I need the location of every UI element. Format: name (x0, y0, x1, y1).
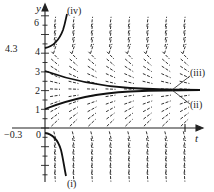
slope-segment (69, 107, 78, 112)
y-tick-1: 1 (35, 104, 40, 115)
slope-segment (184, 17, 185, 27)
slope-segment (180, 107, 189, 112)
slope-segment (125, 59, 133, 65)
slope-segment (91, 17, 92, 27)
curve-label-iii: (iii) (190, 67, 205, 79)
slope-segment (129, 172, 130, 182)
slope-segment (107, 119, 114, 126)
slope-segment (88, 59, 96, 65)
slope-segment (144, 59, 152, 65)
slope-segment (125, 66, 133, 71)
slope-segment (51, 113, 59, 119)
slope-segment (106, 95, 116, 97)
slope-segment (166, 172, 167, 182)
slope-segment (106, 74, 115, 78)
slope-segment (147, 172, 148, 182)
slope-segment (180, 95, 190, 97)
slope-segment (89, 52, 96, 59)
slope-segment (180, 66, 188, 71)
slope-segment (110, 172, 111, 182)
slope-segment (69, 66, 77, 71)
slope-segment (143, 66, 151, 71)
slope-segment (125, 107, 134, 112)
slope-segment (51, 107, 60, 112)
slope-segment (125, 119, 132, 126)
slope-segment (144, 119, 151, 126)
slope-segment (181, 59, 189, 65)
slope-segment (88, 113, 96, 119)
y-tick-6: 6 (34, 17, 39, 28)
slope-segment (181, 52, 188, 59)
slope-segment (124, 81, 134, 83)
slope-segment (52, 52, 59, 59)
slope-segment (181, 113, 189, 119)
curve-iii (45, 71, 200, 90)
slope-segment (144, 52, 151, 59)
slope-segment (69, 95, 79, 97)
curve-ii (45, 90, 200, 109)
slope-segment (106, 81, 116, 83)
slope-segment (124, 74, 133, 78)
slope-segment (161, 81, 171, 83)
slope-segment (70, 113, 78, 119)
solution-curves (45, 14, 200, 176)
slope-segment (88, 66, 96, 71)
slope-segment (107, 52, 114, 59)
slope-segment (162, 59, 170, 65)
slope-segment (161, 101, 170, 104)
slope-segment (126, 52, 133, 59)
y-axis-label: y (35, 2, 41, 14)
slope-segment (88, 107, 97, 112)
slope-segment (143, 101, 152, 104)
slope-segment (50, 81, 60, 83)
slope-segment (180, 74, 189, 78)
slope-segment (92, 172, 93, 182)
slope-segment (184, 172, 185, 182)
slope-segment (128, 17, 129, 27)
curve-label-iv: (iv) (67, 5, 81, 17)
slope-segment (54, 17, 55, 27)
slope-segment (87, 74, 96, 78)
slope-segment (124, 95, 134, 97)
t-axis-label: t (195, 132, 199, 144)
slope-segment (51, 59, 59, 65)
label-lower-initial: −0.3 (4, 129, 22, 140)
slope-segment (163, 52, 170, 59)
slope-field-diagram: y t 6 4 3 2 1 0 4.3 −0.3 (iv) (iii) (ii)… (0, 0, 214, 192)
slope-segment (70, 59, 78, 65)
slope-segment (143, 81, 153, 83)
slope-segment (106, 101, 115, 104)
slope-segment (55, 172, 56, 182)
slope-segment (51, 119, 58, 126)
slope-segment (88, 119, 95, 126)
y-tick-2: 2 (35, 85, 40, 96)
y-axis-arrow-icon (42, 4, 48, 11)
slope-segment (143, 95, 153, 97)
slope-segment (69, 81, 79, 83)
slope-segment (165, 17, 166, 27)
slope-segment (70, 119, 77, 126)
slope-segment (70, 52, 77, 59)
slope-segment (161, 74, 170, 78)
y-tick-4: 4 (35, 46, 40, 57)
curve-label-i: (i) (67, 178, 76, 190)
slope-segment (110, 17, 111, 27)
slope-segment (107, 113, 115, 119)
slope-segment (143, 107, 152, 112)
slope-segment (73, 17, 74, 27)
slope-segment (69, 74, 78, 78)
slope-segment (162, 119, 169, 126)
slope-segment (106, 107, 115, 112)
slope-segment (125, 113, 133, 119)
slope-segment (51, 66, 59, 71)
slope-segment (162, 113, 170, 119)
curve-label-ii: (ii) (190, 99, 202, 111)
slope-field (50, 17, 190, 182)
slope-segment (147, 17, 148, 27)
slope-segment (144, 113, 152, 119)
slope-segment (143, 74, 152, 78)
y-tick-3: 3 (35, 66, 40, 77)
slope-segment (50, 95, 60, 97)
slope-segment (107, 59, 115, 65)
slope-segment (106, 66, 114, 71)
